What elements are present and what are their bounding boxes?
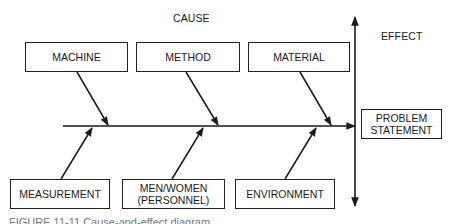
bone-measurement xyxy=(61,128,92,179)
effect-box-problem-statement: PROBLEM STATEMENT xyxy=(361,109,442,139)
cause-box-measurement: MEASUREMENT xyxy=(10,179,110,209)
figure-caption: FIGURE 11-11 Cause-and-effect diagram. xyxy=(9,216,213,224)
cause-box-environment: ENVIRONMENT xyxy=(235,179,335,209)
cause-label: CAUSE xyxy=(173,12,210,24)
cause-box-personnel: MEN/WOMEN (PERSONNEL) xyxy=(122,179,225,209)
cause-label-personnel-1: MEN/WOMEN xyxy=(138,182,210,194)
cause-label-environment: ENVIRONMENT xyxy=(246,188,324,200)
bone-method xyxy=(186,72,218,125)
effect-line-1: PROBLEM xyxy=(370,112,432,124)
effect-line-2: STATEMENT xyxy=(370,124,432,136)
effect-label: EFFECT xyxy=(381,30,422,42)
bone-personnel xyxy=(172,128,203,179)
cause-label-machine: MACHINE xyxy=(52,51,100,63)
bone-machine xyxy=(77,72,108,125)
cause-box-material: MATERIAL xyxy=(248,42,350,72)
bone-environment xyxy=(285,128,316,179)
cause-box-machine: MACHINE xyxy=(25,42,128,72)
cause-label-measurement: MEASUREMENT xyxy=(19,188,101,200)
cause-label-method: METHOD xyxy=(165,51,211,63)
cause-box-method: METHOD xyxy=(136,42,240,72)
bone-material xyxy=(300,72,331,125)
cause-label-personnel-2: (PERSONNEL) xyxy=(138,194,210,206)
cause-label-material: MATERIAL xyxy=(273,51,325,63)
